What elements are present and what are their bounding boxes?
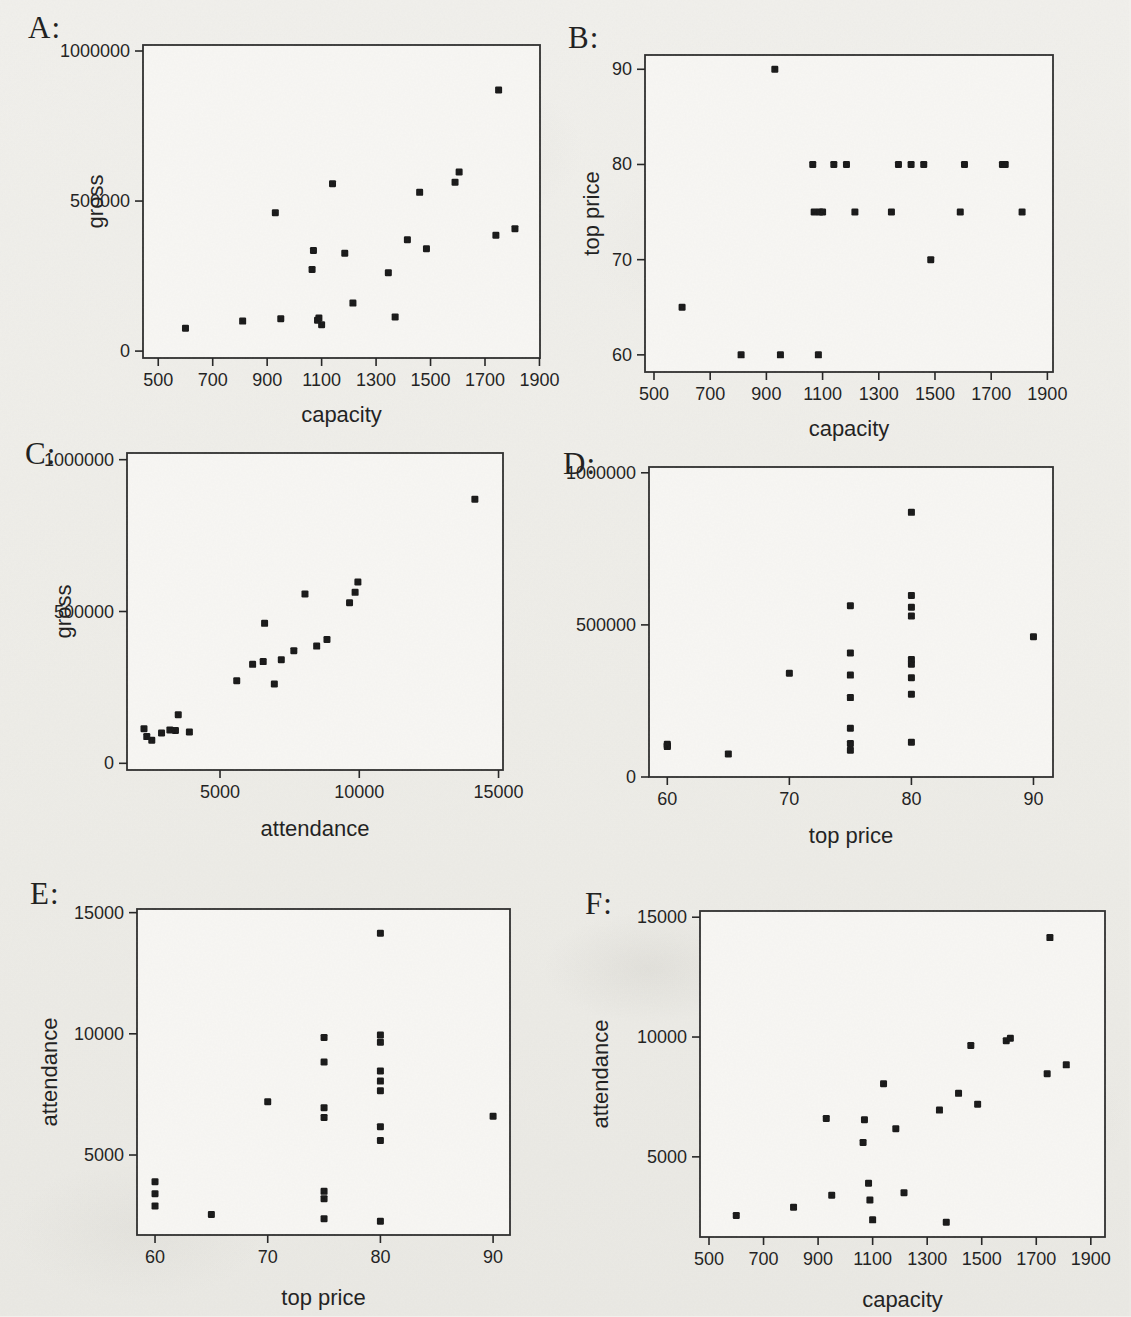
x-tick-label: 900: [751, 384, 781, 404]
y-tick-label: 500000: [576, 615, 636, 635]
data-point: [725, 750, 732, 757]
data-point: [152, 1190, 159, 1197]
data-point: [143, 733, 150, 740]
data-point: [847, 725, 854, 732]
y-tick-label: 0: [626, 767, 636, 787]
y-axis-title: top price: [579, 171, 604, 255]
x-tick-label: 1700: [465, 370, 505, 390]
x-tick-label: 1500: [962, 1249, 1002, 1269]
data-point: [892, 1125, 899, 1132]
data-point: [313, 643, 320, 650]
data-point: [908, 674, 915, 681]
x-tick-label: 80: [370, 1247, 390, 1267]
plot-frame: [137, 909, 510, 1235]
data-point: [880, 1080, 887, 1087]
y-tick-label: 10000: [637, 1027, 687, 1047]
y-axis-title: gross: [83, 175, 108, 229]
data-point: [377, 1087, 384, 1094]
data-point: [1002, 161, 1009, 168]
data-point: [377, 930, 384, 937]
data-point: [790, 1204, 797, 1211]
plot-frame: [645, 55, 1053, 372]
data-point: [318, 321, 325, 328]
x-tick-label: 1900: [1027, 384, 1067, 404]
data-point: [901, 1189, 908, 1196]
x-tick-label: 1100: [302, 370, 341, 390]
x-tick-label: 70: [779, 789, 799, 809]
x-axis-title: top price: [809, 823, 893, 848]
x-tick-label: 500: [694, 1249, 724, 1269]
data-point: [321, 1188, 328, 1195]
data-point: [261, 620, 268, 627]
x-tick-label: 1100: [803, 384, 842, 404]
x-tick-label: 900: [803, 1249, 833, 1269]
y-tick-label: 1000000: [44, 450, 114, 470]
scatter-panel-topprice-vs-capacity: 5007009001100130015001700190060708090cap…: [515, 31, 1079, 452]
data-point: [377, 1067, 384, 1074]
data-point: [809, 161, 816, 168]
data-point: [152, 1178, 159, 1185]
data-point: [847, 694, 854, 701]
x-tick-label: 700: [749, 1249, 779, 1269]
data-point: [315, 315, 322, 322]
x-tick-label: 1700: [1016, 1249, 1056, 1269]
data-point: [186, 729, 193, 736]
data-point: [1063, 1061, 1070, 1068]
x-tick-label: 1300: [859, 384, 899, 404]
data-point: [847, 672, 854, 679]
data-point: [908, 161, 915, 168]
data-point: [239, 318, 246, 325]
y-axis-title: attendance: [588, 1020, 613, 1129]
data-point: [920, 161, 927, 168]
data-point: [349, 300, 356, 307]
data-point: [1046, 934, 1053, 941]
y-tick-label: 70: [612, 250, 632, 270]
data-point: [679, 304, 686, 311]
y-tick-label: 1000000: [60, 41, 130, 61]
data-point: [908, 604, 915, 611]
scatter-plot-f: 5007009001100130015001700190050001000015…: [570, 887, 1131, 1317]
scatter-plot-b: 5007009001100130015001700190060708090cap…: [515, 31, 1079, 452]
data-point: [927, 256, 934, 263]
data-point: [456, 168, 463, 175]
data-point: [936, 1107, 943, 1114]
scatter-panel-gross-vs-capacity: 5007009001100130015001700190005000001000…: [13, 21, 566, 438]
data-point: [277, 315, 284, 322]
data-point: [492, 232, 499, 239]
x-tick-label: 1300: [907, 1249, 947, 1269]
data-point: [140, 725, 147, 732]
data-point: [321, 1034, 328, 1041]
x-axis-title: capacity: [809, 416, 890, 441]
y-tick-label: 80: [612, 154, 632, 174]
data-point: [1007, 1035, 1014, 1042]
data-point: [490, 1113, 497, 1120]
data-point: [847, 602, 854, 609]
data-point: [1044, 1070, 1051, 1077]
data-point: [888, 209, 895, 216]
y-tick-label: 10000: [74, 1024, 124, 1044]
data-point: [377, 1123, 384, 1130]
data-point: [404, 236, 411, 243]
data-point: [777, 351, 784, 358]
scatter-panel-attendance-vs-topprice: 6070809050001000015000top priceattendanc…: [7, 885, 536, 1315]
data-point: [301, 590, 308, 597]
x-tick-label: 1500: [411, 370, 451, 390]
data-point: [354, 579, 361, 586]
x-tick-label: 15000: [474, 782, 524, 802]
data-point: [957, 209, 964, 216]
data-point: [861, 1116, 868, 1123]
data-point: [851, 209, 858, 216]
x-tick-label: 700: [198, 370, 228, 390]
data-point: [786, 670, 793, 677]
y-tick-label: 60: [612, 345, 632, 365]
data-point: [471, 496, 478, 503]
data-point: [860, 1139, 867, 1146]
y-tick-label: 15000: [637, 907, 687, 927]
data-point: [908, 691, 915, 698]
data-point: [423, 245, 430, 252]
data-point: [352, 589, 359, 596]
y-tick-label: 1000000: [566, 463, 636, 483]
y-axis-title: attendance: [37, 1018, 62, 1127]
data-point: [967, 1042, 974, 1049]
x-tick-label: 1300: [356, 370, 396, 390]
